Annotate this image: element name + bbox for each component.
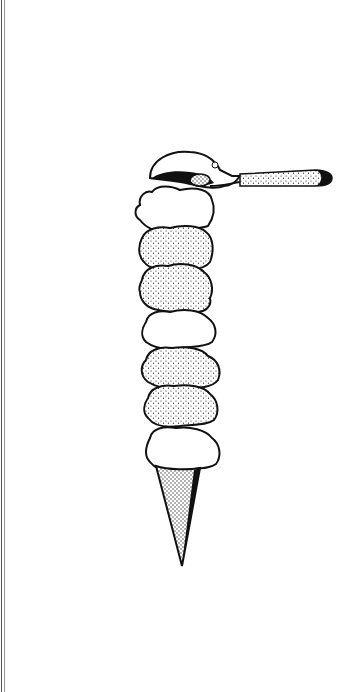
scoop-6: [144, 385, 217, 426]
scoop-4: [142, 310, 215, 349]
scoop-7: [146, 427, 219, 470]
ice-cream-illustration: [0, 0, 364, 692]
scoop-5: [142, 347, 220, 388]
cone: [156, 466, 200, 566]
scoop-1: [136, 187, 214, 233]
scoop-3: [139, 264, 212, 313]
ice-cream-scoop-utensil: [150, 152, 332, 188]
